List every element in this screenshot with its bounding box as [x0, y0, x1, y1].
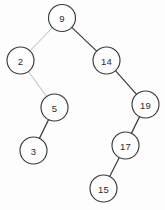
- tree-edge-14-19: [115, 71, 136, 95]
- tree-node-2[interactable]: 2: [7, 47, 34, 74]
- tree-edge-2-5: [28, 71, 46, 96]
- node-label-14: 14: [101, 56, 112, 67]
- node-label-17: 17: [120, 141, 131, 152]
- tree-node-19[interactable]: 19: [132, 91, 159, 118]
- tree-edge-9-14: [72, 27, 97, 51]
- node-label-3: 3: [31, 146, 36, 157]
- node-label-19: 19: [140, 100, 151, 111]
- binary-tree-diagram: 921451931715: [0, 0, 165, 210]
- tree-node-15[interactable]: 15: [90, 175, 117, 202]
- tree-graphic: 921451931715: [0, 0, 165, 210]
- node-label-5: 5: [52, 103, 57, 114]
- tree-edge-19-17: [131, 117, 139, 134]
- tree-node-9[interactable]: 9: [49, 5, 76, 32]
- node-label-9: 9: [59, 13, 64, 24]
- node-layer: 921451931715: [7, 5, 159, 203]
- tree-node-17[interactable]: 17: [112, 132, 139, 159]
- tree-node-14[interactable]: 14: [93, 47, 120, 74]
- tree-edge-5-3: [39, 120, 48, 139]
- tree-node-3[interactable]: 3: [20, 137, 47, 164]
- tree-edge-17-15: [110, 158, 120, 177]
- node-label-2: 2: [18, 56, 23, 67]
- tree-edge-9-2: [30, 28, 53, 51]
- node-label-15: 15: [98, 184, 109, 195]
- tree-node-5[interactable]: 5: [41, 94, 68, 121]
